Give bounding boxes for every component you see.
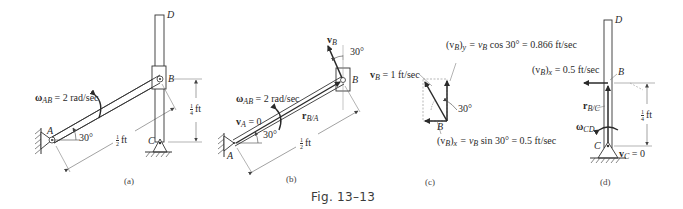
- point-c-label-d: C: [594, 141, 601, 151]
- angle-label-c: 30°: [458, 104, 472, 114]
- point-b-label-d: B: [618, 67, 624, 77]
- panel-b-tag: (b): [286, 174, 297, 184]
- point-d-label-d: D: [615, 15, 622, 25]
- length-ab-label-a: 12ft: [116, 134, 127, 147]
- vb-angle-label-b: 30°: [350, 47, 364, 57]
- r-bc-label-d: rB/C: [583, 101, 600, 113]
- length-label-d: 14ft: [641, 109, 652, 122]
- vby-label-c: (vB)y = vB cos 30° = 0.866 ft/sec: [446, 40, 577, 52]
- figure-drawing: [0, 0, 683, 209]
- omega-ab-label-a: ωAB = 2 rad/sec: [35, 93, 99, 105]
- omega-ab-label-b: ωAB = 2 rad/sec: [236, 94, 300, 106]
- point-c-label-a: C: [148, 136, 155, 146]
- angle-label-a: 30°: [79, 133, 93, 143]
- point-b-label-b: B: [352, 75, 358, 85]
- va-label-b: vA = 0: [236, 117, 262, 129]
- r-ba-label-b: rB/A: [302, 111, 318, 123]
- angle-label-b: 30°: [263, 130, 277, 140]
- panel-a-tag: (a): [124, 176, 134, 186]
- point-b-label-a: B: [168, 74, 174, 84]
- vb-label-b: vB: [327, 35, 337, 47]
- vc-label-d: vC = 0: [619, 149, 645, 161]
- figure-caption: Fig. 13–13: [311, 190, 375, 204]
- vbx-label-d: (vB)x = 0.5 ft/sec: [532, 65, 599, 77]
- omega-cd-label-d: ωCD: [576, 122, 594, 134]
- vbx-label-c: (vB)x = vB sin 30° = 0.5 ft/sec: [437, 136, 556, 148]
- point-d-label-a: D: [167, 10, 174, 20]
- panel-d-tag: (d): [600, 177, 611, 187]
- panel-b-drawing: [218, 45, 360, 173]
- length-label-b: 12ft: [300, 137, 311, 150]
- point-b-label-c: B: [437, 122, 443, 132]
- point-a-label-a: A: [47, 126, 53, 136]
- length-bc-label-a: 14ft: [190, 103, 201, 116]
- point-a-label-b: A: [227, 151, 233, 161]
- panel-c-tag: (c): [425, 177, 435, 187]
- vb-label-c: vB = 1 ft/sec: [370, 70, 420, 82]
